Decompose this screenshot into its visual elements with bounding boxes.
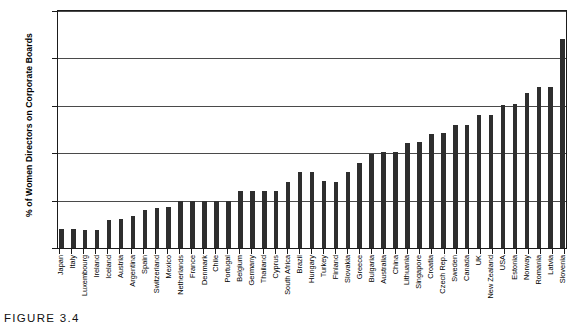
bar [202,201,207,248]
x-tick-label: Netherlands [177,255,184,295]
bar [429,134,434,248]
bar [537,87,542,248]
x-tick-label: Singapore [416,255,423,289]
x-tick-label: Denmark [201,255,208,285]
bar [501,105,506,248]
x-label-slot: Canada [465,255,470,317]
x-label-slot: UK [477,255,482,317]
bar [405,143,410,248]
x-label-slot: Austria [119,255,124,317]
x-label-slot: Greece [357,255,362,317]
bar [119,219,124,248]
bar [477,115,482,248]
bar [262,191,267,248]
x-tick-label: South Africa [284,255,291,295]
x-label-slot: Netherlands [178,255,183,317]
x-label-slot: Italy [71,255,76,317]
bar [83,230,88,248]
x-label-slot: New Zealand [489,255,494,317]
x-label-slot: Cyprus [274,255,279,317]
bar [155,208,160,248]
x-tick-mark [179,249,180,254]
bar [274,191,279,248]
x-tick-label: France [189,255,196,278]
x-label-slot: China [393,255,398,317]
x-tick-mark [383,249,384,254]
x-label-slot: Australia [381,255,386,317]
x-tick-label: Italy [70,255,77,269]
x-tick-mark [504,249,505,254]
x-tick-mark [395,249,396,254]
x-tick-label: Ireland [93,255,100,278]
x-tick-label: Sweden [452,255,459,282]
x-tick-label: Estonia [511,255,518,280]
bar [381,152,386,248]
x-label-slot: Ireland [95,255,100,317]
x-label-slot: Slovakia [346,255,351,317]
x-tick-mark [107,249,108,254]
x-tick-label: Germany [249,255,256,285]
x-tick-mark [371,249,372,254]
x-label-slot: Bulgaria [369,255,374,317]
x-tick-mark [492,249,493,254]
bar [286,182,291,248]
bar [131,216,136,248]
x-tick-label: Latvia [547,255,554,275]
x-tick-label: Cyprus [272,255,279,278]
x-tick-label: Switzerland [153,255,160,293]
x-tick-mark [71,249,72,254]
x-tick-mark [359,249,360,254]
bar [548,87,553,248]
x-tick-label: Austria [117,255,124,278]
x-tick-mark [119,249,120,254]
x-label-slot: Germany [250,255,255,317]
bar [71,229,76,248]
bar [346,172,351,248]
bar [95,230,100,248]
x-label-slot: Romania [537,255,542,317]
x-tick-mark [239,249,240,254]
bar [166,207,171,248]
y-axis-label: % of Women Directors on Corporate Boards [24,0,34,250]
x-tick-label: Mexico [165,255,172,278]
x-tick-mark [167,249,168,254]
x-tick-mark [203,249,204,254]
x-tick-mark [287,249,288,254]
x-tick-mark [444,249,445,254]
x-tick-label: USA [499,255,506,270]
x-tick-label: Finland [332,255,339,279]
x-label-slot: Croatia [429,255,434,317]
x-tick-label: Thailand [261,255,268,283]
bar [298,172,303,248]
bar [513,104,518,248]
bar [214,201,219,248]
bar [334,182,339,248]
x-axis-labels: JapanItalyLuxembourgIrelandIcelandAustri… [58,255,566,317]
x-label-slot: USA [501,255,506,317]
x-tick-mark [263,249,264,254]
bar [59,229,64,248]
x-tick-label: Iceland [105,255,112,279]
x-tick-mark [299,249,300,254]
x-label-slot: South Africa [286,255,291,317]
x-tick-mark [143,249,144,254]
x-tick-mark [516,249,517,254]
x-label-slot: Portugal [226,255,231,317]
x-tick-mark [431,249,432,254]
x-axis-tickmarks [58,249,566,254]
x-tick-label: Lithuania [404,255,411,285]
x-tick-label: New Zealand [487,255,494,299]
x-tick-label: China [392,255,399,274]
x-label-slot: Japan [59,255,64,317]
bar [453,125,458,248]
x-tick-mark [251,249,252,254]
x-tick-label: Greece [356,255,363,279]
x-tick-label: Croatia [428,255,435,279]
bar [143,210,148,248]
bar [322,181,327,248]
bar [489,115,494,248]
x-tick-mark [528,249,529,254]
bar [107,220,112,248]
x-tick-mark [191,249,192,254]
x-label-slot: Slovenia [560,255,565,317]
